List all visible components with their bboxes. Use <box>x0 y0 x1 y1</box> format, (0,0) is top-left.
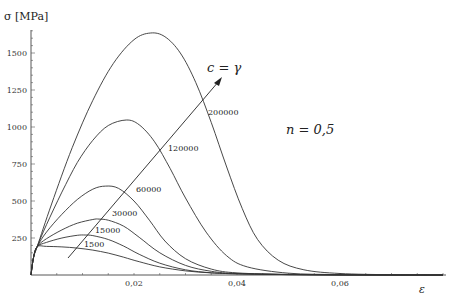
n-label: n = 0,5 <box>286 122 334 137</box>
arrow-head-icon <box>214 77 222 86</box>
x-tick-label: 0,02 <box>125 279 143 288</box>
arrow-line <box>68 81 219 258</box>
curve-label-1500: 1500 <box>84 240 104 249</box>
curve-label-30000: 30000 <box>112 209 137 218</box>
curve-120000 <box>31 120 443 275</box>
y-tick-label: 1500 <box>7 49 27 58</box>
curve-label-15000: 15000 <box>95 226 120 235</box>
x-tick-label: 0,04 <box>228 279 246 288</box>
y-tick-label: 1000 <box>7 123 27 132</box>
curve-labels: 1500150003000060000120000200000 <box>84 108 239 249</box>
curve-label-120000: 120000 <box>168 144 199 153</box>
y-tick-label: 1250 <box>7 86 27 95</box>
x-axis-title: ε <box>419 283 425 296</box>
y-axis-title: σ [MPa] <box>4 10 48 23</box>
y-tick-label: 750 <box>12 160 27 169</box>
curve-label-60000: 60000 <box>136 185 161 194</box>
y-tick-label: 500 <box>12 197 27 206</box>
curve-60000 <box>31 186 443 275</box>
y-tick-label: 250 <box>12 234 27 243</box>
arrow-label: c = γ <box>207 60 241 75</box>
stress-strain-chart: 250500750100012501500 0,020,040,06 σ [MP… <box>0 0 450 299</box>
curve-1500 <box>31 246 443 275</box>
curve-label-200000: 200000 <box>208 108 239 117</box>
x-tick-label: 0,06 <box>331 279 349 288</box>
